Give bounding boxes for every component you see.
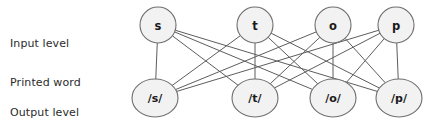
output-node-pp[interactable]: /p/ bbox=[376, 79, 422, 117]
output-node-pt[interactable]: /t/ bbox=[232, 79, 278, 117]
edge-s-to-po bbox=[175, 32, 313, 90]
diagram-canvas: Input level Printed word Output level Sp… bbox=[0, 0, 425, 123]
node-label: s bbox=[155, 19, 162, 33]
node-label: /t/ bbox=[248, 92, 262, 105]
node-label: /s/ bbox=[148, 92, 164, 105]
output-node-ps[interactable]: /s/ bbox=[132, 79, 178, 117]
input-node-p[interactable]: p bbox=[378, 7, 414, 43]
node-label: o bbox=[329, 19, 337, 33]
input-node-t[interactable]: t bbox=[237, 7, 273, 43]
input-node-s[interactable]: s bbox=[140, 7, 176, 43]
edge-s-to-ps bbox=[156, 43, 157, 79]
input-node-o[interactable]: o bbox=[315, 7, 351, 43]
node-label: p bbox=[392, 19, 400, 33]
edge-layer bbox=[156, 30, 398, 91]
edge-p-to-pp bbox=[397, 43, 398, 79]
node-label: /p/ bbox=[391, 92, 408, 105]
output-node-po[interactable]: /o/ bbox=[310, 79, 356, 117]
network-graph: stop/s//t//o//p/ bbox=[0, 0, 425, 123]
node-label: t bbox=[252, 19, 258, 33]
node-label: /o/ bbox=[325, 92, 342, 105]
node-layer: stop/s//t//o//p/ bbox=[132, 7, 422, 117]
